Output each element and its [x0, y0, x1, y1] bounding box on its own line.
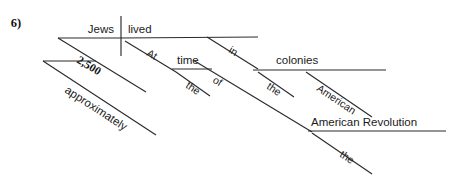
- sentence-diagram-svg: 6) Jews lived 2,500 approximately At tim…: [0, 0, 461, 178]
- word-article-the-2: the: [265, 80, 284, 98]
- word-noun-american-revolution: American Revolution: [311, 116, 417, 128]
- item-number-label: 6): [11, 16, 21, 30]
- word-prep-of: of: [211, 73, 225, 88]
- word-prep-at: At: [145, 46, 160, 61]
- word-noun-time: time: [177, 54, 199, 66]
- word-article-the-3: the: [338, 148, 357, 166]
- word-subject-jews: Jews: [88, 23, 114, 35]
- word-noun-colonies: colonies: [276, 54, 318, 66]
- baseline-verb-segment: [121, 37, 258, 38]
- word-adverb-approximately: approximately: [63, 84, 130, 133]
- sentence-diagram-canvas: 6) Jews lived 2,500 approximately At tim…: [0, 0, 461, 178]
- word-article-the-1: the: [184, 79, 203, 97]
- word-adjective-american: American: [315, 82, 359, 117]
- word-verb-lived: lived: [128, 23, 152, 35]
- prep-line-of: [193, 60, 312, 132]
- word-prep-in: in: [227, 43, 240, 58]
